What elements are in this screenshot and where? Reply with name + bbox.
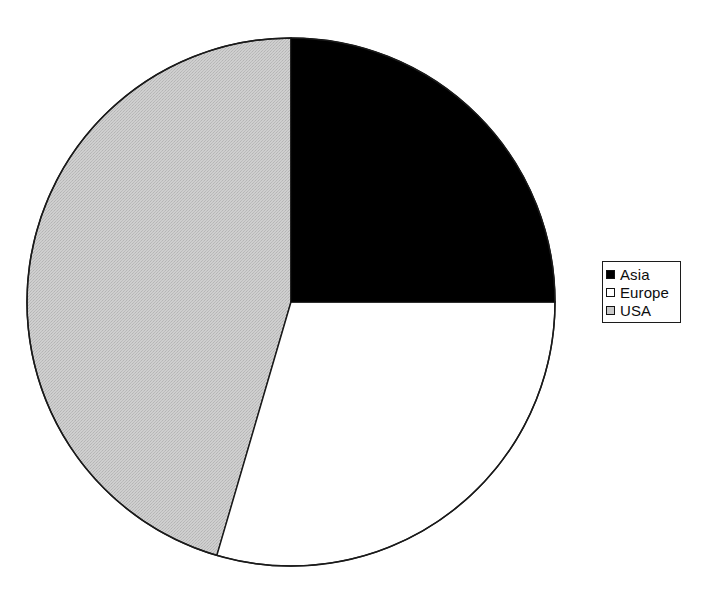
legend-item-asia[interactable]: Asia xyxy=(606,265,676,283)
legend-label-europe: Europe xyxy=(620,284,669,301)
legend-swatch-usa xyxy=(606,306,615,315)
legend-item-europe[interactable]: Europe xyxy=(606,283,676,301)
legend-item-usa[interactable]: USA xyxy=(606,301,676,319)
legend: Asia Europe USA xyxy=(602,261,681,323)
pie-chart-figure: Asia Europe USA xyxy=(0,0,718,596)
legend-label-usa: USA xyxy=(620,302,651,319)
pie-slice-asia[interactable] xyxy=(291,38,555,302)
legend-label-asia: Asia xyxy=(620,266,650,283)
legend-swatch-asia xyxy=(606,270,615,279)
legend-swatch-europe xyxy=(606,288,615,297)
